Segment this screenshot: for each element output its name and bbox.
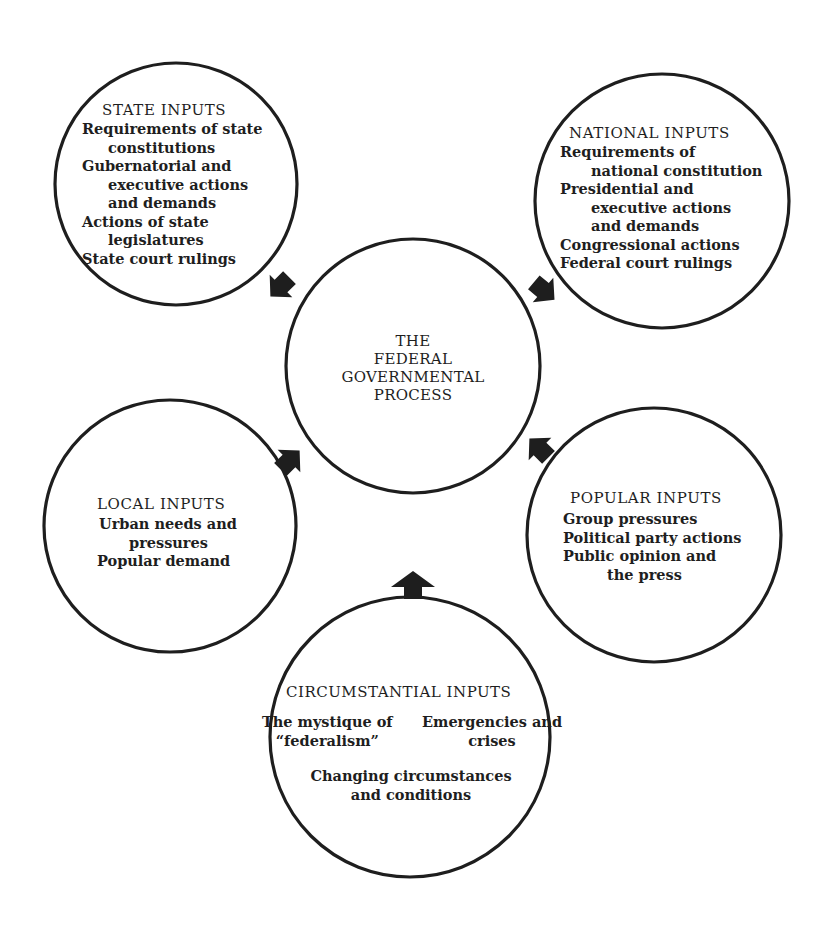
circumstantial-input-item: and conditions (300, 786, 522, 805)
state-input-item: State court rulings (82, 250, 263, 269)
local-input-item: Urban needs and (97, 515, 237, 534)
circumstantial-input-item: Changing circumstances (300, 767, 522, 786)
state-input-item: Actions of state (82, 213, 263, 232)
popular-input-item: the press (563, 566, 741, 585)
circumstantial-to-center-arrow (391, 571, 435, 599)
circumstantial-input-item: “federalism” (262, 732, 393, 751)
state-input-item: and demands (82, 194, 263, 213)
state-input-item: Requirements of state (82, 120, 263, 139)
circumstantial-inputs-title: CIRCUMSTANTIAL INPUTS (286, 683, 511, 701)
circumstantial-bottom-group: Changing circumstances and conditions (300, 767, 522, 804)
local-input-item: Popular demand (97, 552, 237, 571)
state-input-item: legislatures (82, 231, 263, 250)
national-inputs-title: NATIONAL INPUTS (560, 124, 762, 142)
popular-inputs-node: POPULAR INPUTS Group pressures Political… (563, 489, 741, 584)
national-inputs-node: NATIONAL INPUTS Requirements of national… (560, 124, 762, 273)
state-input-item: executive actions (82, 176, 263, 195)
state-to-center-arrow (259, 266, 301, 308)
state-inputs-title: STATE INPUTS (82, 101, 263, 119)
popular-input-item: Group pressures (563, 510, 741, 529)
national-input-item: executive actions (560, 199, 762, 218)
federal-process-label: THE FEDERAL GOVERNMENTAL PROCESS (313, 332, 513, 404)
national-input-item: and demands (560, 217, 762, 236)
national-input-item: Congressional actions (560, 236, 762, 255)
circumstantial-left-group: The mystique of “federalism” (262, 713, 393, 750)
center-line: FEDERAL (313, 350, 513, 368)
circumstantial-input-item: The mystique of (262, 713, 393, 732)
national-input-item: national constitution (560, 162, 762, 181)
local-input-item: pressures (97, 534, 237, 553)
popular-input-item: Public opinion and (563, 547, 741, 566)
local-inputs-title: LOCAL INPUTS (97, 495, 237, 513)
popular-input-item: Political party actions (563, 529, 741, 548)
popular-inputs-title: POPULAR INPUTS (563, 489, 741, 507)
state-inputs-node: STATE INPUTS Requirements of state const… (82, 101, 263, 268)
center-line: GOVERNMENTAL (313, 368, 513, 386)
center-line: THE (313, 332, 513, 350)
circumstantial-input-item: crises (422, 732, 562, 751)
national-input-item: Presidential and (560, 180, 762, 199)
state-input-item: Gubernatorial and (82, 157, 263, 176)
national-input-item: Federal court rulings (560, 254, 762, 273)
national-input-item: Requirements of (560, 143, 762, 162)
circumstantial-input-item: Emergencies and (422, 713, 562, 732)
center-line: PROCESS (313, 386, 513, 404)
local-inputs-node: LOCAL INPUTS Urban needs and pressures P… (97, 495, 237, 571)
circumstantial-right-group: Emergencies and crises (422, 713, 562, 750)
state-input-item: constitutions (82, 139, 263, 158)
